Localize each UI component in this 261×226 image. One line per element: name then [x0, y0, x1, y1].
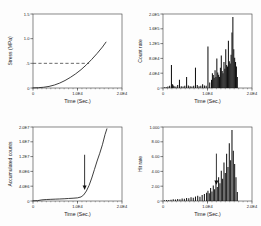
x-tick-label: 1.0E4 — [72, 91, 83, 96]
y-tick-label: 0 — [27, 86, 30, 91]
y-tick-label: 4.00 — [152, 169, 161, 174]
x-tick-label: 2.0E4 — [247, 91, 258, 96]
y-tick-label: 1.2E5 — [149, 41, 160, 46]
x-tick-label: 2.0E4 — [247, 204, 258, 209]
x-axis-label: Time (Sec.) — [64, 98, 91, 104]
x-tick-label: 0 — [32, 91, 35, 96]
x-tick-label: 0 — [162, 204, 165, 209]
y-tick-label: 0 — [157, 86, 160, 91]
panel-bottom-left: 01.0E42.0E404.0E68.0E61.2E71.6E72.0E7Tim… — [0, 113, 131, 226]
x-tick-label: 2.0E4 — [117, 204, 128, 209]
panel-top-left: 01.0E42.0E40.51.01.5Time (Sec.)Stress (M… — [0, 0, 131, 113]
y-tick-label: 1.0 — [24, 36, 30, 41]
y-tick-label: 6.00 — [152, 154, 161, 159]
y-tick-label: 2.00 — [152, 184, 161, 189]
x-tick-label: 1.0E4 — [72, 204, 83, 209]
y-tick-label: 4.0E6 — [19, 184, 30, 189]
y-tick-label: .5 — [26, 61, 30, 66]
x-tick-label: 1.0E4 — [202, 204, 213, 209]
y-tick-label: 1.2E7 — [19, 154, 30, 159]
y-axis-label: Hit rate — [137, 156, 143, 172]
y-tick-label: 8.0E4 — [149, 56, 160, 61]
y-axis-label: Count rate — [137, 39, 143, 63]
y-tick-label: 1.5 — [24, 12, 30, 17]
y-axis-label: Stress (MPa) — [7, 36, 13, 66]
y-tick-label: 2.0E7 — [19, 125, 30, 130]
panel-bottom-right: 01.0E42.0E402.004.006.008.001.000Time (S… — [130, 113, 261, 226]
y-tick-label: 0 — [157, 199, 160, 204]
y-tick-label: 8.00 — [152, 139, 161, 144]
x-axis-label: Time (Sec.) — [194, 211, 221, 217]
x-axis-label: Time (Sec.) — [64, 211, 91, 217]
y-tick-label: 0 — [27, 199, 30, 204]
y-tick-label: 2.0E5 — [149, 12, 160, 17]
y-tick-label: 1.6E7 — [19, 139, 30, 144]
x-tick-label: 0 — [162, 91, 165, 96]
x-tick-label: 0 — [32, 204, 35, 209]
y-tick-label: 8.0E6 — [19, 169, 30, 174]
x-tick-label: 1.0E4 — [202, 91, 213, 96]
x-axis-label: Time (Sec.) — [194, 98, 221, 104]
y-axis-label: Accumulated counts — [7, 141, 13, 187]
y-tick-label: 4.0E4 — [149, 71, 160, 76]
x-tick-label: 2.0E4 — [117, 91, 128, 96]
figure-four-panel: 01.0E42.0E40.51.01.5Time (Sec.)Stress (M… — [0, 0, 261, 226]
panel-top-right: 01.0E42.0E404.0E48.0E41.2E51.6E52.0E5Tim… — [130, 0, 261, 113]
y-tick-label: 1.000 — [149, 125, 160, 130]
y-tick-label: 1.6E5 — [149, 26, 160, 31]
